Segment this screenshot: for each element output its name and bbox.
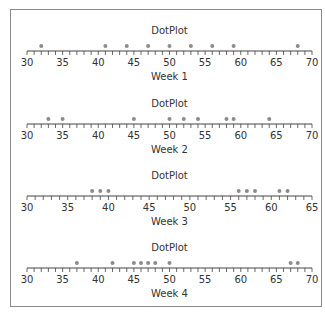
- tick-label: 50: [183, 202, 196, 213]
- data-dot: [125, 44, 129, 48]
- dotplot-panel: DotPlot303540455055606570Week 1DotPlot30…: [0, 0, 325, 318]
- x-axis-label: Week 2: [151, 144, 188, 155]
- tick-label: 60: [234, 274, 247, 285]
- tick-label: 40: [92, 274, 105, 285]
- tick-label: 30: [21, 57, 34, 68]
- tick-label: 35: [56, 274, 69, 285]
- tick-label: 70: [306, 130, 319, 141]
- data-dot: [153, 261, 157, 265]
- plot-title: DotPlot: [151, 25, 188, 36]
- tick-label: 40: [92, 57, 105, 68]
- tick-label: 45: [128, 130, 141, 141]
- data-dot: [61, 117, 65, 121]
- data-dot: [189, 44, 193, 48]
- data-dot: [196, 117, 200, 121]
- tick-label: 50: [163, 274, 176, 285]
- tick-label: 65: [270, 57, 283, 68]
- tick-label: 50: [163, 57, 176, 68]
- x-axis-label: Week 4: [151, 288, 188, 299]
- data-dot: [182, 117, 186, 121]
- x-axis-label: Week 1: [151, 71, 188, 82]
- data-dot: [289, 261, 293, 265]
- dotplot-1: DotPlot303540455055606570Week 1: [21, 25, 319, 82]
- data-dot: [98, 189, 102, 193]
- data-dot: [168, 44, 172, 48]
- data-dot: [90, 189, 94, 193]
- data-dot: [168, 261, 172, 265]
- data-dot: [232, 117, 236, 121]
- tick-label: 35: [56, 57, 69, 68]
- plot-title: DotPlot: [151, 98, 188, 109]
- tick-label: 45: [128, 274, 141, 285]
- data-dot: [168, 117, 172, 121]
- data-dot: [277, 189, 281, 193]
- data-dot: [225, 117, 229, 121]
- plot-title: DotPlot: [151, 242, 188, 253]
- data-dot: [245, 189, 249, 193]
- tick-label: 60: [265, 202, 278, 213]
- x-axis-label: Week 3: [151, 216, 188, 227]
- tick-label: 70: [306, 57, 319, 68]
- tick-label: 65: [270, 130, 283, 141]
- tick-label: 60: [234, 57, 247, 68]
- data-dot: [46, 117, 50, 121]
- tick-label: 30: [21, 130, 34, 141]
- data-dot: [39, 44, 43, 48]
- tick-label: 55: [199, 130, 212, 141]
- tick-label: 65: [306, 202, 319, 213]
- data-dot: [296, 44, 300, 48]
- data-dot: [267, 117, 271, 121]
- tick-label: 35: [56, 130, 69, 141]
- data-dot: [286, 189, 290, 193]
- dotplot-4: DotPlot303540455055606570Week 4: [21, 242, 319, 299]
- tick-label: 55: [224, 202, 237, 213]
- data-dot: [103, 44, 107, 48]
- data-dot: [253, 189, 257, 193]
- plot-title: DotPlot: [151, 170, 188, 181]
- data-dot: [146, 261, 150, 265]
- dotplot-2: DotPlot303540455055606570Week 2: [21, 98, 319, 155]
- data-dot: [232, 44, 236, 48]
- tick-label: 65: [270, 274, 283, 285]
- data-dot: [111, 261, 115, 265]
- tick-label: 45: [128, 57, 141, 68]
- data-dot: [296, 261, 300, 265]
- data-dot: [75, 261, 79, 265]
- tick-label: 55: [199, 274, 212, 285]
- tick-label: 45: [143, 202, 156, 213]
- data-dot: [132, 117, 136, 121]
- data-dot: [237, 189, 241, 193]
- tick-label: 30: [21, 274, 34, 285]
- data-dot: [106, 189, 110, 193]
- tick-label: 30: [21, 202, 34, 213]
- tick-label: 35: [61, 202, 74, 213]
- data-dot: [132, 261, 136, 265]
- tick-label: 40: [102, 202, 115, 213]
- tick-label: 60: [234, 130, 247, 141]
- tick-label: 50: [163, 130, 176, 141]
- dotplot-3: DotPlot3035404550556065Week 3: [21, 170, 319, 227]
- tick-label: 40: [92, 130, 105, 141]
- data-dot: [146, 44, 150, 48]
- tick-label: 55: [199, 57, 212, 68]
- data-dot: [210, 44, 214, 48]
- data-dot: [139, 261, 143, 265]
- tick-label: 70: [306, 274, 319, 285]
